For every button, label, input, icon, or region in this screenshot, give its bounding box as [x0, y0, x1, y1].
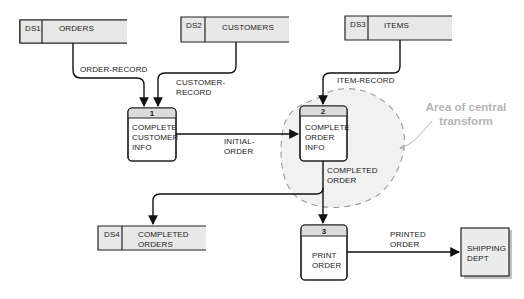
data-store-ds3[interactable]: DS3 ITEMS	[345, 16, 452, 40]
annotation-pointer-icon	[400, 121, 432, 148]
process-1[interactable]: 1 COMPLETE CUSTOMER INFO	[128, 108, 179, 161]
process-3-line1: PRINT	[312, 251, 337, 260]
ds3-name: ITEMS	[384, 21, 409, 30]
dfd-canvas: Area of central transform DS1 ORDERS DS2…	[0, 0, 524, 299]
flow-customer-record-label-line1: CUSTOMER-	[176, 78, 225, 87]
annotation: Area of central transform	[400, 101, 506, 148]
flow-customer-record-label-line2: RECORD	[176, 88, 211, 97]
process-1-line3: INFO	[132, 143, 152, 152]
flow-printed-order-label-line1: PRINTED	[390, 230, 426, 239]
annotation-line1: Area of central	[426, 101, 507, 113]
shipping-dept-line2: DEPT	[467, 254, 489, 263]
data-store-ds4[interactable]: DS4 COMPLETED ORDERS	[98, 226, 206, 250]
process-2[interactable]: 2 COMPLETE ORDER INFO	[300, 106, 350, 161]
ds2-id: DS2	[186, 21, 202, 30]
ds1-name: ORDERS	[59, 24, 94, 33]
flow-order-record-label: ORDER-RECORD	[80, 65, 148, 74]
ds4-name-line1: COMPLETED	[138, 230, 189, 239]
external-entity-shipping-dept[interactable]: SHIPPING DEPT	[461, 228, 512, 279]
flow-printed-order-label-line2: ORDER	[390, 240, 420, 249]
process-2-number: 2	[321, 107, 326, 116]
process-3-line2: ORDER	[312, 261, 342, 270]
process-2-line2: ORDER	[305, 133, 335, 142]
process-3[interactable]: 3 PRINT ORDER	[301, 225, 347, 280]
process-3-number: 3	[322, 227, 327, 236]
ds2-name: CUSTOMERS	[222, 23, 274, 32]
annotation-line2: transform	[439, 115, 493, 127]
flow-initial-order-label-line2: ORDER	[224, 147, 254, 156]
process-1-line1: COMPLETE	[132, 123, 177, 132]
data-store-ds2[interactable]: DS2 CUSTOMERS	[181, 17, 289, 42]
process-1-number: 1	[150, 109, 155, 118]
flow-initial-order-label-line1: INITIAL-	[224, 137, 255, 146]
flow-customer-record: CUSTOMER- RECORD	[158, 42, 236, 106]
shipping-dept-line1: SHIPPING	[467, 244, 506, 253]
flow-initial-order: INITIAL- ORDER	[176, 134, 298, 156]
ds1-id: DS1	[25, 24, 41, 33]
process-2-line3: INFO	[305, 143, 325, 152]
process-1-line2: CUSTOMER	[132, 133, 179, 142]
flow-completed-order-label-line1: COMPLETED	[327, 166, 378, 175]
ds3-id: DS3	[350, 20, 366, 29]
ds4-name-line2: ORDERS	[138, 240, 173, 249]
flow-printed-order: PRINTED ORDER	[347, 230, 459, 252]
flow-order-record: ORDER-RECORD	[73, 43, 148, 106]
flow-item-record-label: ITEM-RECORD	[337, 76, 395, 85]
ds4-id: DS4	[104, 230, 120, 239]
data-store-ds1[interactable]: DS1 ORDERS	[20, 20, 127, 43]
process-2-line1: COMPLETE	[305, 123, 350, 132]
flow-completed-order-label-line2: ORDER	[327, 176, 357, 185]
